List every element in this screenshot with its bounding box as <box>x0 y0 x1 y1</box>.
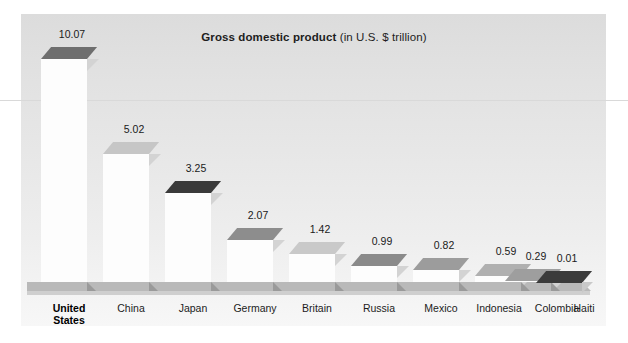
bar-plinth-united-states <box>87 282 96 291</box>
value-label-haiti: 0.01 <box>532 252 602 264</box>
bar-side-japan <box>211 193 223 205</box>
bar-face-germany <box>227 240 273 282</box>
bar-top-russia <box>351 254 407 266</box>
bar-plinth-colombia <box>551 282 560 291</box>
gdp-bar-chart-figure: Gross domestic product (in U.S. $ trilli… <box>0 0 628 343</box>
bar-face-united-states <box>41 59 87 282</box>
category-label-united-states-line2: States <box>26 314 112 326</box>
bar-plinth-russia <box>397 282 406 291</box>
bar-side-united-states <box>87 59 99 71</box>
ground-strip <box>27 282 582 291</box>
bar-mexico <box>413 258 471 282</box>
bar-top-germany <box>227 228 283 240</box>
bar-plinth-mexico <box>459 282 468 291</box>
bar-haiti <box>536 271 594 282</box>
bar-face-mexico <box>413 270 459 282</box>
bar-top-mexico <box>413 258 469 270</box>
bar-face-russia <box>351 266 397 282</box>
bar-plinth-germany <box>273 282 282 291</box>
bar-plinth-china <box>149 282 158 291</box>
value-label-russia: 0.99 <box>347 235 417 247</box>
bar-top-china <box>103 142 159 154</box>
value-label-japan: 3.25 <box>161 162 231 174</box>
bar-japan <box>165 181 223 282</box>
value-label-britain: 1.42 <box>285 223 355 235</box>
bar-plinth-japan <box>211 282 220 291</box>
value-label-mexico: 0.82 <box>409 239 479 251</box>
bar-top-united-states <box>41 47 97 59</box>
ground-strip-front <box>27 291 590 295</box>
bar-face-britain <box>289 254 335 282</box>
value-label-china: 5.02 <box>99 123 169 135</box>
category-label-haiti: Haiti <box>529 302 628 314</box>
bar-side-china <box>149 154 161 166</box>
bar-germany <box>227 228 285 282</box>
bar-china <box>103 142 161 282</box>
chart-title-main: Gross domestic product <box>201 31 336 43</box>
chart-title-units: (in U.S. $ trillion) <box>340 31 427 43</box>
bar-top-japan <box>165 181 221 193</box>
bar-side-haiti <box>582 282 593 293</box>
bar-face-japan <box>165 193 211 282</box>
bar-side-germany <box>273 240 285 252</box>
value-label-germany: 2.07 <box>223 209 293 221</box>
bar-plinth-indonesia <box>521 282 530 291</box>
bar-top-britain <box>289 242 345 254</box>
bar-united-states <box>41 47 99 282</box>
bar-russia <box>351 254 409 282</box>
bar-side-mexico <box>459 270 471 282</box>
bar-side-britain <box>335 254 347 266</box>
value-label-united-states: 10.07 <box>37 28 107 40</box>
bar-face-china <box>103 154 149 282</box>
bar-plinth-britain <box>335 282 344 291</box>
bar-side-russia <box>397 266 409 278</box>
bar-britain <box>289 242 347 282</box>
